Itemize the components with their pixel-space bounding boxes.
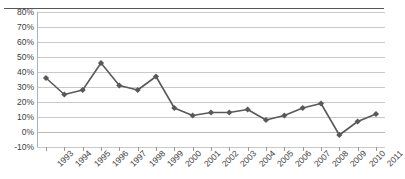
x-axis-label: 2010 [367,149,387,169]
x-axis-label: 2008 [331,149,351,169]
y-axis-label: 0% [22,128,34,137]
data-point-marker [263,117,269,123]
y-axis-label: 60% [17,38,34,47]
data-point-marker [300,105,306,111]
x-axis-label: 1996 [111,149,131,169]
x-axis-label: 2001 [202,149,222,169]
y-axis-tick-labels: 80%70%60%50%40%30%20%10%0%-10% [0,12,36,147]
x-axis-label: 2005 [276,149,296,169]
data-point-marker [226,109,232,115]
y-axis-label: 20% [17,98,34,107]
x-axis-label: 2004 [257,149,277,169]
data-point-marker [373,111,379,117]
data-point-marker [245,106,251,112]
y-axis-label: 70% [17,23,34,32]
series-line [46,63,376,135]
x-axis-label: 2003 [239,149,259,169]
y-axis-label: 10% [17,113,34,122]
series-line-chart [37,12,385,147]
x-axis-label: 2006 [294,149,314,169]
y-axis-label: 80% [17,8,34,17]
x-axis-label: 1993 [56,149,76,169]
x-axis-label: 2009 [349,149,369,169]
chart-title-remnant [0,0,388,7]
y-axis-label: 30% [17,83,34,92]
x-axis-label: 2000 [184,149,204,169]
data-point-marker [190,112,196,118]
x-axis-label: 1999 [166,149,186,169]
x-axis-label: 2002 [221,149,241,169]
x-axis-label: 1997 [129,149,149,169]
y-axis-label: 50% [17,53,34,62]
x-axis-label: 2007 [312,149,332,169]
x-axis-label: 1994 [74,149,94,169]
plot-area [37,12,385,147]
plot-wrapper: 80%70%60%50%40%30%20%10%0%-10% 199319941… [0,12,388,176]
data-point-marker [208,109,214,115]
x-axis-label: 1995 [92,149,112,169]
x-axis-tick-labels: 1993199419951996199719981999200020012002… [37,149,385,179]
y-axis-label: 40% [17,68,34,77]
data-point-marker [281,112,287,118]
x-axis-label: 2011 [385,149,404,168]
y-axis-label: -10% [14,143,34,152]
header-divider [4,8,384,9]
x-axis-label: 1998 [147,149,167,169]
